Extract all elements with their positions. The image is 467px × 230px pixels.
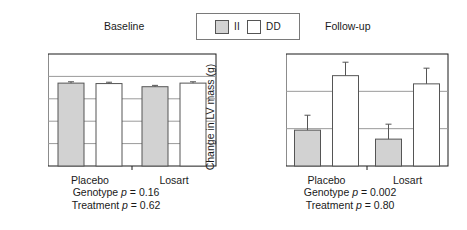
bar-ii-losart bbox=[376, 139, 402, 166]
caption-baseline-line1: Genotype p = 0.16 bbox=[8, 186, 224, 199]
x-category-label: Losart bbox=[159, 174, 188, 186]
legend-label-ii: II bbox=[234, 22, 240, 32]
legend-item-dd: DD bbox=[247, 20, 281, 34]
plot-area-followup: 051015PlaceboLosart bbox=[286, 50, 456, 172]
caption-baseline-line2: Treatment p = 0.62 bbox=[8, 199, 224, 212]
chart-followup: 051015PlaceboLosart bbox=[286, 50, 450, 190]
legend-swatch-dd-icon bbox=[247, 20, 261, 34]
caption-followup: Genotype p = 0.002 Treatment p = 0.80 bbox=[242, 186, 458, 212]
legend-label-dd: DD bbox=[266, 22, 281, 32]
legend: II DD bbox=[196, 13, 300, 40]
legend-swatch-ii-icon bbox=[215, 20, 229, 34]
y-axis-label-followup: Change in LV mass (g) bbox=[204, 54, 218, 180]
panel-title-followup: Follow-up bbox=[325, 20, 371, 32]
bar-dd-placebo bbox=[333, 76, 359, 166]
figure-root: Baseline Follow-up II DD LV mass (g) 050… bbox=[0, 0, 467, 230]
bar-dd-placebo bbox=[96, 84, 122, 166]
bar-ii-losart bbox=[142, 87, 168, 166]
chart-baseline: 050100150200250PlaceboLosart bbox=[48, 50, 218, 190]
bar-dd-losart bbox=[180, 83, 206, 166]
plot-area-baseline: 050100150200250PlaceboLosart bbox=[48, 50, 218, 172]
x-category-label: Losart bbox=[393, 174, 422, 186]
x-category-label: Placebo bbox=[308, 174, 346, 186]
bar-dd-losart bbox=[414, 84, 440, 166]
panel-followup: Change in LV mass (g) 051015PlaceboLosar… bbox=[238, 46, 454, 230]
caption-followup-line2: Treatment p = 0.80 bbox=[242, 199, 458, 212]
x-category-label: Placebo bbox=[71, 174, 109, 186]
caption-followup-line1: Genotype p = 0.002 bbox=[242, 186, 458, 199]
bar-ii-placebo bbox=[58, 83, 84, 166]
panel-title-baseline: Baseline bbox=[104, 20, 144, 32]
bar-ii-placebo bbox=[295, 130, 321, 166]
caption-baseline: Genotype p = 0.16 Treatment p = 0.62 bbox=[8, 186, 224, 212]
legend-item-ii: II bbox=[215, 20, 240, 34]
panel-baseline: LV mass (g) 050100150200250PlaceboLosart… bbox=[8, 46, 224, 230]
